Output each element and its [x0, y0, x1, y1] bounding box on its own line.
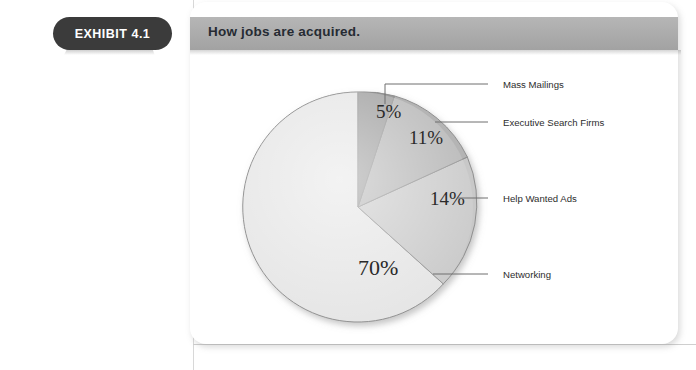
page-bottom-caption	[62, 362, 322, 370]
pie-chart: 5% 11% 14% 70% Mass Mailings Executive S…	[190, 50, 696, 350]
legend-label-networking: Networking	[503, 269, 551, 280]
exhibit-page: EXHIBIT 4.1 How jobs are acquired.	[0, 0, 696, 370]
exhibit-badge: EXHIBIT 4.1	[53, 17, 172, 50]
legend-label-mass-mailings: Mass Mailings	[503, 79, 564, 90]
legend-label-executive-search-firms: Executive Search Firms	[503, 117, 604, 128]
pie-chart-svg: 5% 11% 14% 70% Mass Mailings Executive S…	[190, 50, 696, 350]
pie-value-label-mass-mailings: 5%	[376, 101, 402, 122]
legend-label-help-wanted-ads: Help Wanted Ads	[503, 193, 577, 204]
exhibit-badge-label: EXHIBIT 4.1	[75, 27, 151, 41]
page-title: How jobs are acquired.	[208, 24, 360, 39]
pie-value-label-executive-search-firms: 11%	[409, 127, 443, 148]
pie-value-label-networking: 70%	[358, 255, 398, 280]
